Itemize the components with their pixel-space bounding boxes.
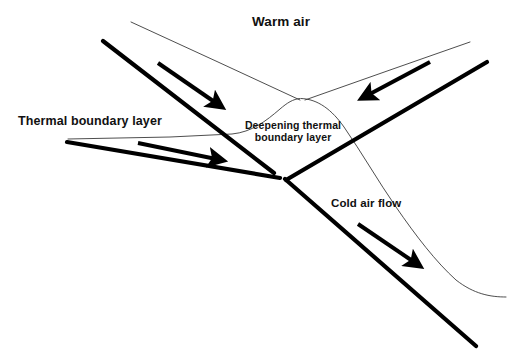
frontal-diagram: Warm air Thermal boundary layer Deepenin… [0,0,522,362]
deepening-label-line-2: boundary layer [231,131,355,143]
thick-front-lines [67,41,487,346]
warm-inflow-upper-left-arrow [158,63,216,103]
cold-air-flow-label: Cold air flow [331,197,401,210]
lower-left-front-line [67,142,280,178]
thermal-boundary-layer-label: Thermal boundary layer [18,114,162,128]
warm-sector-right-edge-line [305,42,470,100]
deepening-thermal-boundary-layer-label: Deepening thermal boundary layer [231,119,355,143]
cold-outflow-lower-right-arrow [358,224,414,262]
diagram-canvas [0,0,522,362]
deepening-label-line-1: Deepening thermal [231,119,355,131]
warm-air-label: Warm air [252,14,310,30]
warm-sector-left-edge-line [131,22,300,100]
